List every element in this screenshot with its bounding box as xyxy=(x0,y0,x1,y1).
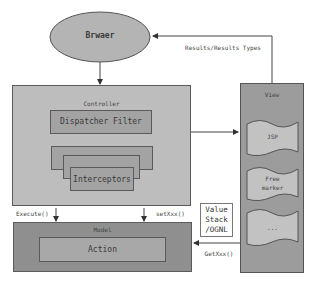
execute-label: Execute() xyxy=(16,210,52,217)
interceptors-label: Interceptors xyxy=(70,175,134,184)
browser-label: Brwaer xyxy=(50,31,150,40)
value-stack-label: Value Stack /OGNL xyxy=(200,205,233,235)
action-label: Action xyxy=(39,245,166,254)
doc-freemarker-label: Free marker xyxy=(247,174,298,192)
controller-label: Controller xyxy=(12,100,191,107)
results-label: Results/Results Types xyxy=(178,44,268,51)
doc-more-label: ... xyxy=(247,224,298,231)
dispatcher-filter-label: Dispatcher Filter xyxy=(50,117,152,126)
model-label: Model xyxy=(13,226,192,233)
getxxx-label: GetXxx() xyxy=(202,250,236,257)
setxxx-label: setXxx() xyxy=(156,210,188,217)
view-label: View xyxy=(240,91,304,98)
doc-jsp-label: JSP xyxy=(247,133,298,140)
